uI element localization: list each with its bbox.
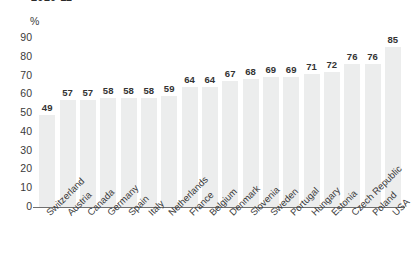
bar-value-label: 76 [359,51,387,62]
bar-column[interactable]: 59 [161,96,177,207]
bar[interactable] [344,64,360,207]
y-axis-tick-40: 40 [8,125,32,137]
y-axis-tick-10: 10 [8,181,32,193]
chart-title: 2010-11 [31,0,72,3]
bar[interactable] [161,96,177,207]
bar-value-label: 49 [33,102,61,113]
y-axis-tick-90: 90 [8,31,32,43]
y-axis-unit-label: % [30,15,39,27]
bar-column[interactable]: 64 [202,87,218,207]
y-axis-tick-50: 50 [8,106,32,118]
y-axis-tick-70: 70 [8,69,32,81]
y-axis-tick-60: 60 [8,87,32,99]
bar-value-label: 59 [155,83,183,94]
y-axis-tick-0: 0 [8,200,32,212]
y-axis-tick-20: 20 [8,162,32,174]
bar-value-label: 85 [379,34,407,45]
bar-column[interactable]: 76 [344,64,360,207]
bar[interactable] [141,98,157,207]
bar-column[interactable]: 49 [39,115,55,207]
bar[interactable] [39,115,55,207]
bar-column[interactable]: 58 [141,98,157,207]
plot-area: 495757585858596464676869697172767685 [37,30,403,207]
y-axis-tick-80: 80 [8,50,32,62]
bar[interactable] [202,87,218,207]
y-axis-tick-30: 30 [8,144,32,156]
